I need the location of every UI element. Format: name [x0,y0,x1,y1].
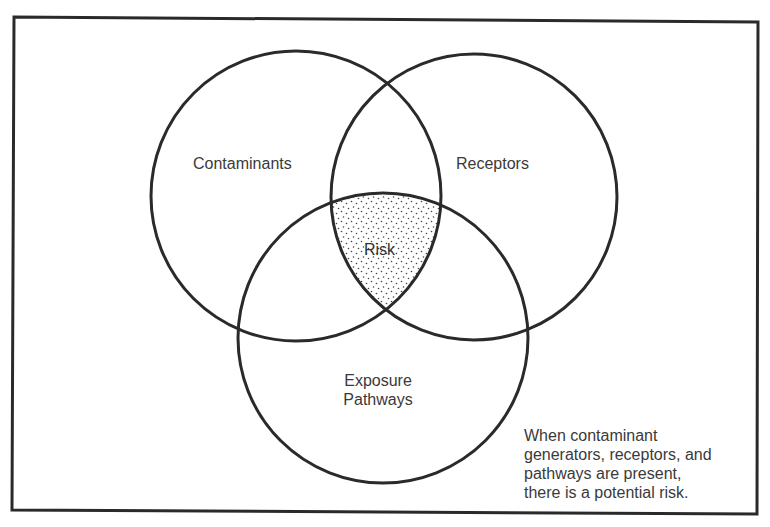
risk-label: Risk [364,240,395,259]
receptors-label: Receptors [456,154,529,173]
note-line-4: there is a potential risk. [524,483,712,502]
exposure-label-line1: Exposure [330,371,426,390]
note-line-2: generators, receptors, and [524,445,712,464]
exposure-pathways-label: Exposure Pathways [330,371,426,409]
contaminants-label: Contaminants [193,154,292,173]
risk-note: When contaminant generators, receptors, … [524,426,712,502]
exposure-label-line2: Pathways [330,390,426,409]
note-line-3: pathways are present, [524,464,712,483]
note-line-1: When contaminant [524,426,712,445]
